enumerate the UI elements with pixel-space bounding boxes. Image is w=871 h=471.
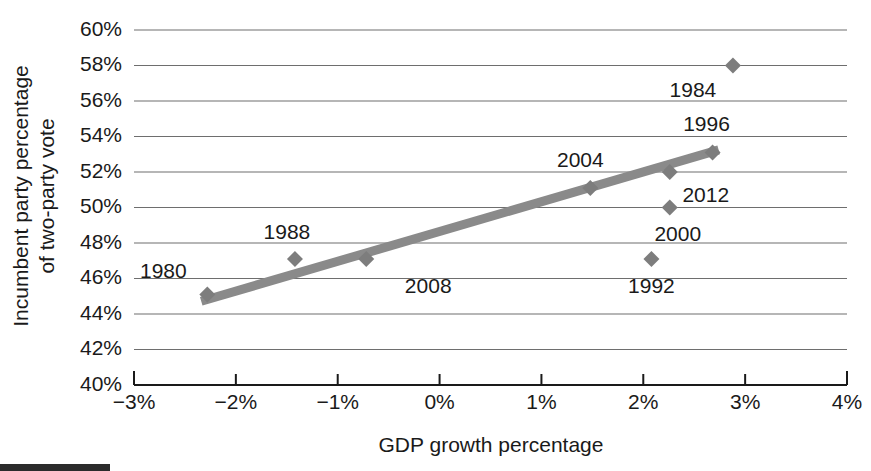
data-label-1980: 1980 — [140, 259, 187, 282]
x-axis-tick-7: 4% — [832, 390, 862, 413]
y-axis-tick-46: 46% — [80, 265, 122, 288]
y-axis-title-line2: of two-party vote — [35, 118, 58, 273]
x-axis-tick-2: −1% — [316, 390, 359, 413]
y-axis-tick-44: 44% — [80, 301, 122, 324]
y-axis-tick-56: 56% — [80, 88, 122, 111]
y-axis-tick-58: 58% — [80, 52, 122, 75]
y-axis-tick-52: 52% — [80, 159, 122, 182]
y-axis-tick-42: 42% — [80, 336, 122, 359]
chart-canvas: 198019882008200419922000201219961984 40%… — [0, 0, 871, 471]
data-label-1996: 1996 — [683, 112, 730, 135]
data-label-1992: 1992 — [628, 274, 675, 297]
y-axis-tick-60: 60% — [80, 17, 122, 40]
x-axis-tick-3: 0% — [424, 390, 454, 413]
x-axis-tick-6: 3% — [730, 390, 760, 413]
data-label-1988: 1988 — [264, 220, 311, 243]
data-label-2008: 2008 — [405, 274, 452, 297]
footer-rule — [0, 464, 110, 471]
y-axis-tick-50: 50% — [80, 194, 122, 217]
y-axis-tick-labels: 40%42%44%46%48%50%52%54%56%58%60% — [80, 17, 122, 395]
x-axis-title: GDP growth percentage — [379, 433, 604, 456]
data-label-2012: 2012 — [682, 183, 729, 206]
y-axis-tick-54: 54% — [80, 123, 122, 146]
data-label-2000: 2000 — [654, 222, 701, 245]
y-axis-title-line1: Incumbent party percentage — [9, 65, 32, 327]
data-label-1984: 1984 — [670, 78, 717, 101]
data-label-2004: 2004 — [557, 148, 604, 171]
gdp-vote-scatter-chart: 198019882008200419922000201219961984 40%… — [0, 0, 871, 471]
x-axis-tick-1: −2% — [215, 390, 258, 413]
y-axis-tick-48: 48% — [80, 230, 122, 253]
x-axis-tick-5: 2% — [628, 390, 658, 413]
x-axis-tick-0: −3% — [113, 390, 156, 413]
x-axis-tick-4: 1% — [526, 390, 556, 413]
